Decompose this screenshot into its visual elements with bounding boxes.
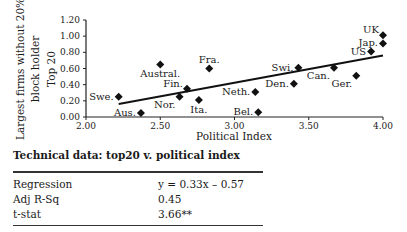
svg-text:block holder: block holder <box>29 35 41 102</box>
svg-text:Largest firms without 20%: Largest firms without 20% <box>14 0 26 140</box>
row-value: 0.45 <box>158 192 263 207</box>
y-tick-label: 1.20 <box>60 15 80 25</box>
row-label: Regression <box>13 177 158 192</box>
point-label: Nor. <box>154 99 176 110</box>
y-tick-label: 1.00 <box>60 31 80 41</box>
x-tick-label: 3.50 <box>299 121 319 131</box>
diamond-marker-icon <box>254 108 262 116</box>
x-tick-label: 4.00 <box>373 121 393 131</box>
diamond-marker-icon <box>379 31 387 39</box>
data-point: Austral. <box>139 60 180 79</box>
data-point: Neth. <box>222 86 259 97</box>
y-tick-label: 0.80 <box>60 47 80 57</box>
scatter-chart: Largest firms without 20% block holder T… <box>0 0 407 145</box>
data-point: Swi. <box>272 62 303 73</box>
diamond-marker-icon <box>251 88 259 96</box>
row-value: y = 0.33x – 0.57 <box>158 177 263 192</box>
x-tick-label: 2.50 <box>150 121 170 131</box>
point-label: Den. <box>265 78 289 89</box>
point-label: Bel. <box>234 106 254 117</box>
x-axis-title: Political Index <box>196 130 272 142</box>
point-label: Swe. <box>89 91 114 102</box>
data-point: Ita. <box>190 96 207 115</box>
point-label: Can. <box>307 70 330 81</box>
diamond-marker-icon <box>205 65 213 73</box>
diamond-marker-icon <box>156 60 164 68</box>
table-title: Technical data: top20 v. political index <box>13 145 263 171</box>
point-label: Neth. <box>222 86 250 97</box>
diamond-marker-icon <box>379 39 387 47</box>
bottom-rule <box>13 225 263 227</box>
data-point: Swe. <box>89 91 123 102</box>
point-label: Aus. <box>113 107 136 118</box>
y-tick-label: 0.40 <box>60 80 80 90</box>
diamond-marker-icon <box>115 93 123 101</box>
data-points: Swe.Aus.Austral.Nor.Fin.Ita.Fra.Neth.Bel… <box>89 24 387 118</box>
point-label: Swi. <box>272 62 294 73</box>
table-row-t-stat: t-stat 3.66** <box>13 207 263 222</box>
table-rows: Regression y = 0.33x – 0.57 Adj R-Sq 0.4… <box>13 173 263 225</box>
row-value: 3.66** <box>158 207 263 222</box>
point-label: Fin. <box>163 78 183 89</box>
row-label: t-stat <box>13 207 158 222</box>
y-tick-label: 0.20 <box>60 96 80 106</box>
technical-data-table: Technical data: top20 v. political index… <box>13 145 263 226</box>
data-point: Bel. <box>234 106 263 117</box>
data-point: Den. <box>265 78 298 89</box>
data-point: Fra. <box>199 54 220 73</box>
diamond-marker-icon <box>367 48 375 56</box>
data-point: Aus. <box>113 107 145 118</box>
row-label: Adj R-Sq <box>13 192 158 207</box>
axes: 0.000.200.400.600.801.001.202.002.503.00… <box>60 15 393 131</box>
point-label: Fra. <box>199 54 220 65</box>
diamond-marker-icon <box>195 96 203 104</box>
data-point: Ger. <box>331 72 360 89</box>
x-tick-label: 2.00 <box>76 121 96 131</box>
diamond-marker-icon <box>352 72 360 80</box>
point-label: Ita. <box>190 104 207 115</box>
point-label: Ger. <box>331 78 352 89</box>
y-axis-title: Largest firms without 20% block holder T… <box>14 0 57 140</box>
data-point: Jap. <box>357 37 387 48</box>
data-point: Fin. <box>163 78 191 93</box>
point-label: Jap. <box>357 37 378 48</box>
svg-text:Top 20: Top 20 <box>45 51 57 87</box>
diamond-marker-icon <box>137 109 145 117</box>
point-label: UK <box>363 24 379 35</box>
y-tick-label: 0.60 <box>60 64 80 74</box>
table-row-regression: Regression y = 0.33x – 0.57 <box>13 177 263 192</box>
table-row-adj-r-sq: Adj R-Sq 0.45 <box>13 192 263 207</box>
diamond-marker-icon <box>290 80 298 88</box>
